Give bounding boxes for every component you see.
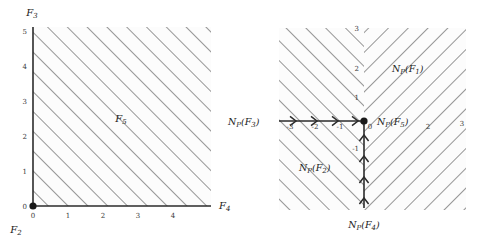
cone-label-NP-F3-paren: (F <box>241 116 252 127</box>
cone-label-NP-F1-paren: (F <box>405 63 416 74</box>
cone-label-NP-F4-paren: (F <box>361 219 372 230</box>
cone-label-NP-F2-paren: (F <box>312 162 323 173</box>
left-ytick-4: 4 <box>23 63 28 71</box>
cone-label-NP-F5-close: ) <box>404 116 409 127</box>
right-xtick-neg3: -3 <box>287 123 294 131</box>
left-xtick-2: 2 <box>101 212 105 220</box>
cone-origin-NP-F5-dot <box>360 117 367 124</box>
vertex-F2-dot <box>29 202 36 209</box>
left-region-label-F5-sub: 5 <box>122 118 127 126</box>
right-xtick-3: 3 <box>460 120 464 128</box>
cone-upper-left-shading <box>279 28 364 121</box>
left-ytick-2: 2 <box>23 133 27 141</box>
left-xtick-0: 0 <box>31 212 35 220</box>
left-ytick-3: 3 <box>23 98 27 106</box>
right-ytick-2: 2 <box>355 65 359 73</box>
right-ytick-neg1: -1 <box>352 145 359 153</box>
right-xtick-neg1: -1 <box>337 123 344 131</box>
math-figure: 0 1 2 3 4 5 0 1 2 3 4 F3 F4 F2 F5 <box>0 0 486 243</box>
right-ytick-1: 1 <box>355 94 359 102</box>
cone-lower-right-shading <box>364 121 466 210</box>
left-ytick-0: 0 <box>23 203 27 211</box>
cone-label-NP-F2-close: ) <box>326 162 331 173</box>
left-xtick-4: 4 <box>171 212 176 220</box>
right-tick-zero: 0 <box>368 123 372 131</box>
right-xtick-neg2: -2 <box>312 123 319 131</box>
left-ytick-1: 1 <box>23 168 27 176</box>
left-ytick-5: 5 <box>23 28 27 36</box>
left-panel: 0 1 2 3 4 5 0 1 2 3 4 F3 F4 F2 F5 <box>9 7 230 237</box>
cone-label-NP-F1-close: ) <box>419 63 424 74</box>
figure-container: 0 1 2 3 4 5 0 1 2 3 4 F3 F4 F2 F5 <box>0 0 486 243</box>
right-xtick-2: 2 <box>426 123 430 131</box>
right-ytick-3: 3 <box>355 25 359 33</box>
cone-label-NP-F3-close: ) <box>255 116 260 127</box>
left-vertex-label-F2-sub: 2 <box>16 229 22 237</box>
left-xtick-1: 1 <box>66 212 70 220</box>
cone-label-NP-F5-paren: (F <box>390 116 401 127</box>
cone-label-NP-F4-close: ) <box>375 219 380 230</box>
left-ylabel-F3-sub: 3 <box>33 12 38 20</box>
left-xtick-3: 3 <box>136 212 140 220</box>
left-xlabel-F4-sub: 4 <box>225 205 230 213</box>
